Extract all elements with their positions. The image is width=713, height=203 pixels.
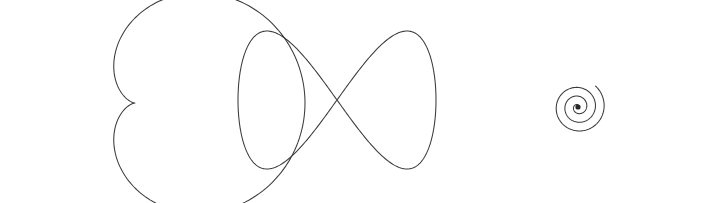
spiral-curve (556, 86, 604, 131)
lemniscate-curve (238, 31, 436, 169)
panel-cardioid (114, 0, 305, 203)
spiral-center-dot (575, 104, 580, 109)
curves-svg (0, 0, 713, 203)
cardioid-curve (114, 0, 305, 203)
figure-canvas (0, 0, 713, 203)
panel-lemniscate (238, 31, 436, 169)
panel-spiral (556, 86, 604, 131)
